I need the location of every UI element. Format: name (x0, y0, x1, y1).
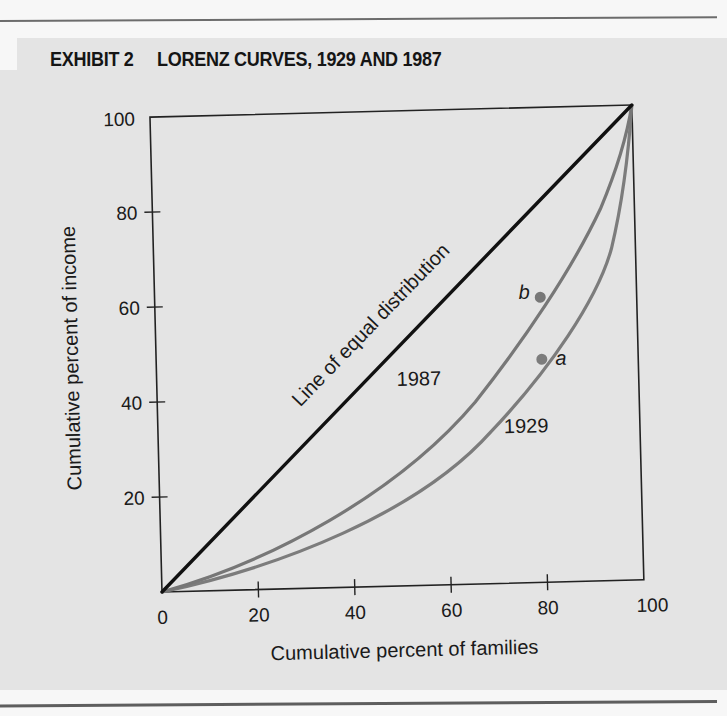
point-a-label: a (555, 347, 567, 369)
y-tick-100: 100 (103, 109, 135, 131)
x-tick-0: 0 (157, 607, 168, 628)
label-1987: 1987 (396, 367, 441, 390)
x-tick-40: 40 (345, 602, 367, 624)
point-b-label: b (518, 281, 530, 303)
y-tick-20: 20 (123, 487, 145, 509)
y-tick-40: 40 (121, 392, 143, 414)
point-a-marker (536, 354, 547, 365)
label-1929: 1929 (504, 414, 549, 437)
equal-distribution-line (150, 105, 644, 592)
x-tick-20: 20 (248, 604, 270, 626)
point-b-marker (535, 292, 546, 303)
y-tick-80: 80 (116, 203, 138, 225)
y-axis-title: Cumulative percent of income (57, 226, 86, 491)
plot-area: 100 80 60 40 20 0 20 40 60 80 100 Cumula… (54, 95, 670, 669)
x-tick-100: 100 (636, 594, 668, 616)
y-tick-60: 60 (118, 297, 140, 319)
x-axis-title: Cumulative percent of families (270, 635, 538, 664)
x-tick-60: 60 (441, 599, 463, 621)
x-tick-80: 80 (537, 597, 559, 619)
